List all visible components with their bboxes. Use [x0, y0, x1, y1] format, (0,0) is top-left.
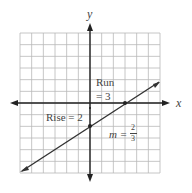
y-axis-label: y	[87, 8, 92, 20]
x-axis-label: x	[176, 97, 181, 109]
slope-label: m =	[109, 129, 127, 140]
rise-label: Rise = 2	[46, 112, 83, 123]
run-label: Run	[96, 77, 114, 88]
x-axis-right-arrow-icon	[162, 100, 170, 106]
y-axis-up-arrow-icon	[87, 23, 93, 31]
point-y-intercept	[88, 124, 92, 128]
rise-tick	[89, 107, 91, 109]
slope-numerator: 2	[131, 124, 135, 132]
run-value-label: = 3	[96, 91, 110, 102]
y-axis-down-arrow-icon	[87, 174, 93, 182]
slope-denominator: 3	[131, 135, 135, 143]
x-axis-left-arrow-icon	[10, 100, 18, 106]
point-x-intercept	[123, 101, 127, 105]
